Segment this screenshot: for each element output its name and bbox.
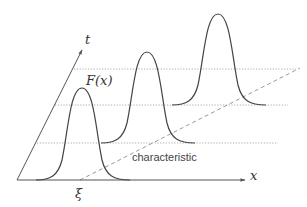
t-axis [17, 50, 82, 180]
function-label: F(x) [85, 73, 113, 88]
characteristic-diagram: t x F(x) ξ characteristic [0, 0, 307, 207]
characteristic-label: characteristic [132, 151, 197, 163]
time-slice-lines [37, 69, 296, 143]
pulse-curve-2 [101, 52, 195, 143]
pulse-curve-3 [172, 14, 266, 105]
pulse-curve-1 [36, 88, 130, 180]
xi-label: ξ [75, 186, 83, 201]
t-axis-label: t [85, 32, 91, 47]
x-axis-label: x [250, 168, 258, 183]
characteristic-line [80, 68, 300, 180]
